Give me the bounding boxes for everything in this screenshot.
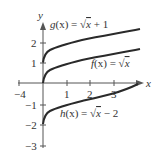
svg-text:h(x) = √x − 2: h(x) = √x − 2 [60, 107, 118, 120]
y-tick-label: −2 [25, 119, 37, 131]
sqrt-transformations-graph: x −4 1 2 3 y 2 1 −1 −2 −3 [0, 0, 157, 162]
y-axis-arrow-icon [40, 22, 46, 30]
svg-text:g(x) = √x + 1: g(x) = √x + 1 [50, 18, 108, 31]
y-tick-label: −1 [25, 99, 37, 111]
y-tick-label: −3 [25, 140, 37, 152]
y-axis-label: y [37, 9, 43, 21]
svg-text:f(x) = √x: f(x) = √x [91, 57, 130, 70]
chart-svg: x −4 1 2 3 y 2 1 −1 −2 −3 [0, 0, 157, 162]
label-h: h(x) = √x − 2 [60, 107, 118, 120]
y-tick-label: 1 [31, 57, 37, 69]
label-f: f(x) = √x [91, 57, 130, 70]
label-g: g(x) = √x + 1 [50, 18, 108, 31]
y-tick-label: 2 [31, 37, 37, 49]
x-axis-label: x [145, 77, 151, 89]
x-tick-label: 1 [64, 88, 70, 100]
